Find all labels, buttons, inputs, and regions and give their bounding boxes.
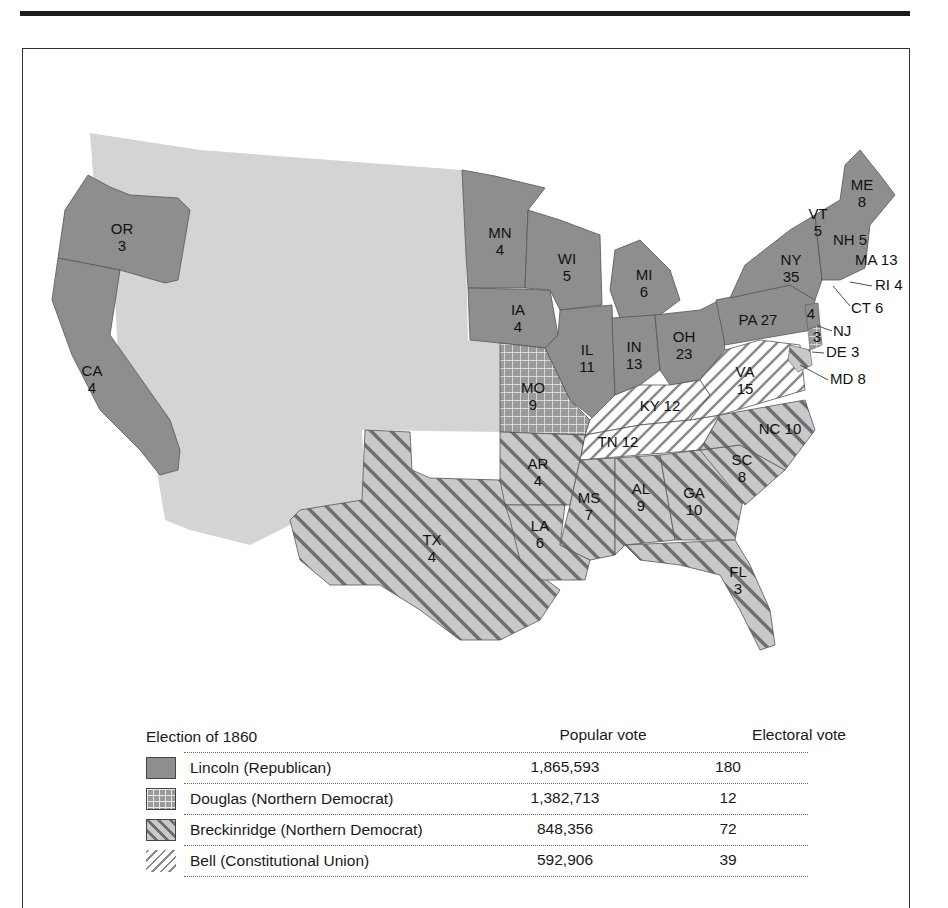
svg-text:SC: SC bbox=[732, 451, 753, 468]
svg-text:VT: VT bbox=[808, 205, 827, 222]
svg-text:NC 10: NC 10 bbox=[759, 420, 802, 437]
svg-text:15: 15 bbox=[737, 380, 754, 397]
legend-row-breckinridge: Breckinridge (Northern Democrat) 848,356… bbox=[146, 815, 808, 846]
svg-text:4: 4 bbox=[807, 305, 815, 322]
svg-text:AL: AL bbox=[632, 480, 650, 497]
svg-text:RI 4: RI 4 bbox=[875, 276, 903, 293]
douglas-swatch bbox=[146, 788, 176, 810]
svg-text:4: 4 bbox=[534, 472, 542, 489]
svg-text:OH: OH bbox=[673, 328, 696, 345]
svg-text:7: 7 bbox=[585, 506, 593, 523]
svg-text:ME: ME bbox=[851, 176, 874, 193]
svg-text:4: 4 bbox=[88, 379, 96, 396]
svg-text:CA: CA bbox=[82, 362, 103, 379]
electoral-vote-header: Electoral vote bbox=[700, 726, 846, 744]
legend-row-douglas: Douglas (Northern Democrat) 1,382,713 12 bbox=[146, 784, 808, 815]
svg-text:TN 12: TN 12 bbox=[598, 433, 639, 450]
svg-text:DE 3: DE 3 bbox=[826, 343, 859, 360]
svg-text:4: 4 bbox=[514, 318, 522, 335]
svg-text:VA: VA bbox=[736, 363, 755, 380]
svg-text:IN: IN bbox=[627, 338, 642, 355]
svg-text:NJ: NJ bbox=[833, 322, 851, 339]
svg-text:6: 6 bbox=[536, 534, 544, 551]
svg-text:OR: OR bbox=[111, 220, 134, 237]
svg-text:GA: GA bbox=[683, 484, 705, 501]
svg-text:9: 9 bbox=[529, 396, 537, 413]
svg-text:IA: IA bbox=[511, 301, 525, 318]
svg-text:MD 8: MD 8 bbox=[830, 370, 866, 387]
svg-text:IL: IL bbox=[581, 341, 594, 358]
svg-text:4: 4 bbox=[496, 241, 504, 258]
svg-text:CT 6: CT 6 bbox=[851, 299, 883, 316]
legend-title: Election of 1860 bbox=[146, 728, 257, 746]
svg-text:TX: TX bbox=[422, 531, 441, 548]
legend-header: Election of 1860 Popular vote Electoral … bbox=[184, 722, 808, 753]
svg-text:9: 9 bbox=[637, 497, 645, 514]
state-florida bbox=[625, 540, 775, 650]
legend-table: Election of 1860 Popular vote Electoral … bbox=[146, 722, 808, 877]
svg-text:3: 3 bbox=[118, 237, 126, 254]
popular-vote-header: Popular vote bbox=[548, 726, 658, 744]
svg-text:5: 5 bbox=[814, 222, 822, 239]
svg-text:MA 13: MA 13 bbox=[855, 251, 898, 268]
svg-text:11: 11 bbox=[579, 358, 595, 375]
state-new-york bbox=[730, 215, 822, 300]
svg-text:KY 12: KY 12 bbox=[640, 397, 681, 414]
bell-swatch bbox=[146, 850, 176, 872]
svg-text:8: 8 bbox=[738, 468, 746, 485]
svg-text:AR: AR bbox=[528, 455, 549, 472]
svg-text:23: 23 bbox=[676, 345, 693, 362]
svg-text:35: 35 bbox=[783, 268, 800, 285]
legend-row-lincoln: Lincoln (Republican) 1,865,593 180 bbox=[146, 753, 808, 784]
breckinridge-swatch bbox=[146, 819, 176, 841]
svg-text:MS: MS bbox=[578, 489, 601, 506]
svg-text:8: 8 bbox=[858, 193, 866, 210]
svg-text:WI: WI bbox=[558, 250, 576, 267]
svg-text:LA: LA bbox=[531, 517, 549, 534]
svg-text:PA 27: PA 27 bbox=[739, 311, 778, 328]
legend-row-bell: Bell (Constitutional Union) 592,906 39 bbox=[146, 846, 808, 877]
svg-text:4: 4 bbox=[428, 548, 436, 565]
lincoln-swatch bbox=[146, 757, 176, 779]
svg-text:10: 10 bbox=[686, 501, 703, 518]
svg-text:3: 3 bbox=[813, 328, 821, 345]
svg-text:NY: NY bbox=[781, 251, 802, 268]
svg-text:MI: MI bbox=[636, 266, 653, 283]
svg-text:6: 6 bbox=[640, 283, 648, 300]
svg-text:3: 3 bbox=[734, 580, 742, 597]
svg-text:MN: MN bbox=[488, 224, 511, 241]
svg-text:NH 5: NH 5 bbox=[833, 231, 867, 248]
svg-text:5: 5 bbox=[563, 267, 571, 284]
svg-text:FL: FL bbox=[729, 563, 747, 580]
svg-text:MO: MO bbox=[521, 379, 545, 396]
svg-text:13: 13 bbox=[626, 355, 643, 372]
